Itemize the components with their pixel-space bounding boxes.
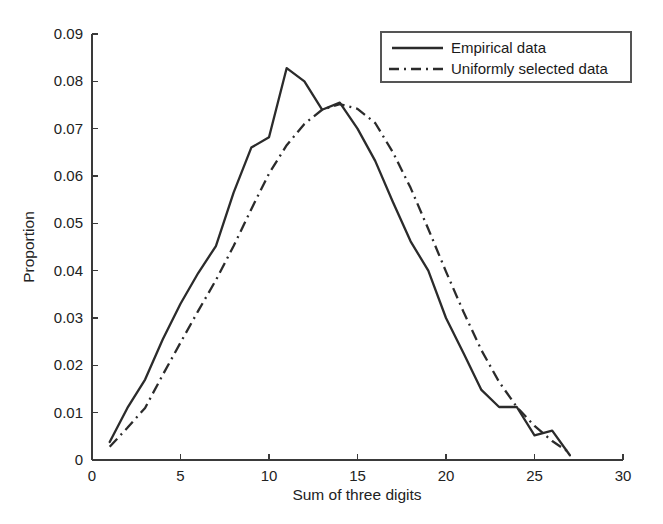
x-tick-label: 15 [349,467,366,484]
legend-label-empirical: Empirical data [451,39,547,56]
chart-figure: 00.010.020.030.040.050.060.070.080.09 05… [0,0,663,524]
y-axis-ticks: 00.010.020.030.040.050.060.070.080.09 [54,25,98,468]
y-axis-title: Proportion [20,211,37,283]
x-tick-label: 0 [88,467,96,484]
x-tick-label: 5 [176,467,184,484]
series-uniformly-selected-data [110,104,570,453]
legend-label-uniform: Uniformly selected data [451,60,608,77]
x-tick-label: 30 [615,467,632,484]
y-tick-label: 0.02 [54,356,83,373]
y-tick-label: 0.07 [54,120,83,137]
y-tick-label: 0.04 [54,262,83,279]
series-empirical-data [110,68,570,455]
y-tick-label: 0.03 [54,309,83,326]
y-tick-label: 0.06 [54,167,83,184]
legend: Empirical data Uniformly selected data [381,32,631,82]
y-tick-label: 0 [75,451,83,468]
axes [92,34,623,460]
x-tick-label: 25 [526,467,543,484]
x-tick-label: 10 [261,467,278,484]
x-tick-label: 20 [438,467,455,484]
series-group [110,68,570,455]
y-tick-label: 0.05 [54,214,83,231]
line-chart: 00.010.020.030.040.050.060.070.080.09 05… [0,0,663,524]
x-axis-ticks: 051015202530 [88,454,632,484]
y-tick-label: 0.01 [54,404,83,421]
x-axis-title: Sum of three digits [292,486,421,503]
y-tick-label: 0.08 [54,72,83,89]
y-tick-label: 0.09 [54,25,83,42]
